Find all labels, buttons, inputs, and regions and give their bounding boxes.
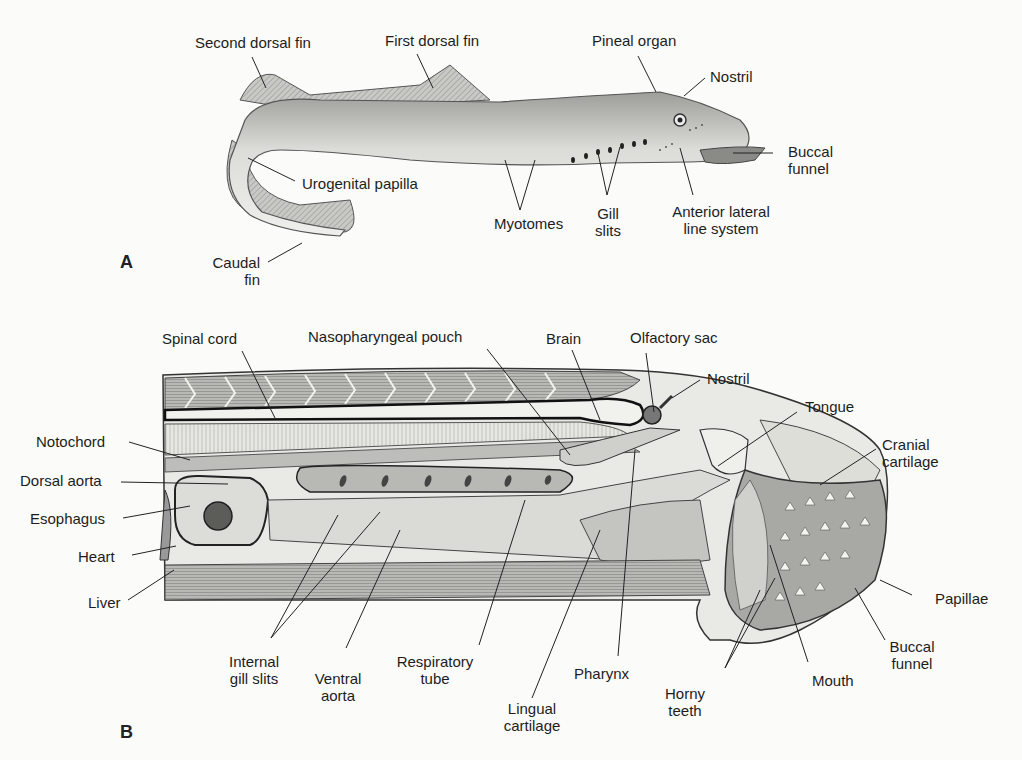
label-line: Respiratory [385, 653, 485, 670]
label-first-dorsal-fin: First dorsal fin [385, 32, 479, 49]
label-line: Anterior lateral [656, 203, 786, 220]
label-papillae: Papillae [935, 590, 988, 607]
label-line: funnel [788, 160, 833, 177]
label-line: line system [656, 220, 786, 237]
label-mouth: Mouth [812, 672, 854, 689]
label-line: cartilage [492, 717, 572, 734]
label-line: Buccal [882, 638, 942, 655]
label-olfactory-sac: Olfactory sac [630, 329, 718, 346]
label-spinal-cord: Spinal cord [162, 330, 237, 347]
label-brain: Brain [546, 330, 581, 347]
label-nostril-b: Nostril [707, 370, 750, 387]
label-gill-slits: Gill slits [592, 205, 624, 239]
label-liver: Liver [88, 594, 121, 611]
label-line: slits [592, 222, 624, 239]
label-buccal-funnel-b: Buccal funnel [882, 638, 942, 672]
label-line: teeth [655, 702, 715, 719]
label-line: tube [385, 670, 485, 687]
label-esophagus: Esophagus [30, 510, 105, 527]
label-line: Internal [218, 653, 290, 670]
label-notochord: Notochord [36, 433, 105, 450]
label-myotomes: Myotomes [494, 215, 563, 232]
label-respiratory-tube: Respiratory tube [385, 653, 485, 687]
panel-label-a: A [120, 252, 133, 273]
label-line: fin [200, 271, 260, 288]
label-internal-gill-slits: Internal gill slits [218, 653, 290, 687]
label-pharynx: Pharynx [574, 665, 629, 682]
label-line: Horny [655, 685, 715, 702]
lamprey-sagittal-section [160, 368, 888, 643]
panel-label-b: B [120, 722, 133, 743]
label-line: aorta [308, 687, 368, 704]
label-buccal-funnel-a: Buccal funnel [788, 143, 833, 177]
label-line: Caudal [200, 254, 260, 271]
label-dorsal-aorta: Dorsal aorta [20, 472, 102, 489]
label-line: cartilage [882, 453, 939, 470]
label-urogenital-papilla: Urogenital papilla [302, 175, 418, 192]
label-tongue: Tongue [805, 398, 854, 415]
label-lingual-cartilage: Lingual cartilage [492, 700, 572, 734]
label-cranial-cartilage: Cranial cartilage [882, 436, 939, 470]
label-line: Buccal [788, 143, 833, 160]
label-second-dorsal-fin: Second dorsal fin [195, 34, 311, 51]
label-line: funnel [882, 655, 942, 672]
label-line: Cranial [882, 436, 939, 453]
label-horny-teeth: Horny teeth [655, 685, 715, 719]
lamprey-illustration [0, 0, 1022, 760]
label-nostril-a: Nostril [710, 68, 753, 85]
label-caudal-fin: Caudal fin [200, 254, 260, 288]
label-nasopharyngeal-pouch: Nasopharyngeal pouch [308, 328, 462, 345]
label-line: gill slits [218, 670, 290, 687]
label-line: Lingual [492, 700, 572, 717]
label-line: Ventral [308, 670, 368, 687]
label-ventral-aorta: Ventral aorta [308, 670, 368, 704]
label-heart: Heart [78, 548, 115, 565]
label-anterior-lateral-line: Anterior lateral line system [656, 203, 786, 237]
label-line: Gill [592, 205, 624, 222]
label-pineal-organ: Pineal organ [592, 32, 676, 49]
